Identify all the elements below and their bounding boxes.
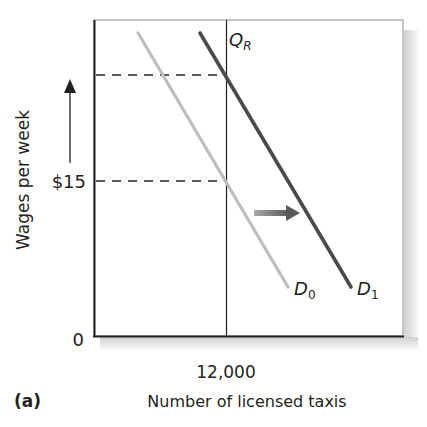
plot-shadow-bottom (100, 337, 418, 351)
y-axis-label: Wages per week (13, 110, 33, 250)
origin-label: 0 (73, 329, 84, 350)
panel-label: (a) (14, 391, 41, 411)
up-arrow-icon (64, 79, 76, 163)
y-tick-15: $15 (52, 171, 86, 192)
x-tick-12000: 12,000 (196, 362, 255, 382)
x-axis-label: Number of licensed taxis (147, 392, 346, 411)
chart-canvas: QR D0 D1 $15 0 12,000 Number of licensed… (0, 0, 427, 427)
plot-shadow-right (404, 30, 420, 348)
